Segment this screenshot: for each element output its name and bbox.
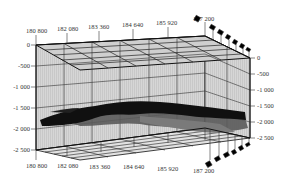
right-z-label: -1 500 bbox=[257, 102, 274, 109]
bottom-x-label: 184 640 bbox=[123, 163, 144, 170]
right-z-ticks bbox=[250, 58, 255, 138]
bottom-x-label: 185 920 bbox=[157, 165, 178, 172]
left-z-ticks bbox=[31, 45, 36, 150]
left-z-label: -500 bbox=[18, 62, 30, 69]
right-z-label: -2 500 bbox=[257, 134, 274, 141]
top-x-label: 182 080 bbox=[57, 25, 78, 32]
right-z-label: -1 000 bbox=[257, 86, 274, 93]
left-z-label: -1 500 bbox=[13, 104, 30, 111]
3d-surface-chart: 180 800 182 080 183 360 184 640 185 920 … bbox=[0, 0, 291, 188]
left-z-label: -2 500 bbox=[13, 146, 30, 153]
left-z-label: -1 000 bbox=[13, 83, 30, 90]
top-x-label: 183 360 bbox=[88, 23, 109, 30]
bottom-x-label: 180 800 bbox=[26, 162, 47, 169]
top-x-label: 180 800 bbox=[26, 27, 47, 34]
top-x-label: 185 920 bbox=[156, 19, 177, 26]
left-z-axis-labels: 0 -500 -1 000 -1 500 -2 000 -2 500 bbox=[13, 41, 30, 153]
top-x-axis-labels: 180 800 182 080 183 360 184 640 185 920 … bbox=[26, 15, 214, 34]
left-z-label: 0 bbox=[27, 41, 30, 48]
bottom-x-label: 183 360 bbox=[89, 163, 110, 170]
left-z-label: -2 000 bbox=[13, 125, 30, 132]
right-z-label: -500 bbox=[257, 70, 269, 77]
chart-canvas: 180 800 182 080 183 360 184 640 185 920 … bbox=[0, 0, 291, 188]
right-z-axis-labels: 0 -500 -1 000 -1 500 -2 000 -2 500 bbox=[257, 54, 274, 141]
right-z-label: -2 000 bbox=[257, 118, 274, 125]
bottom-x-label: 187 200 bbox=[193, 167, 214, 174]
bottom-x-axis-labels: 180 800 182 080 183 360 184 640 185 920 … bbox=[26, 162, 214, 174]
right-z-label: 0 bbox=[257, 54, 260, 61]
bottom-x-label: 182 080 bbox=[57, 162, 78, 169]
top-x-label: 184 640 bbox=[122, 21, 143, 28]
